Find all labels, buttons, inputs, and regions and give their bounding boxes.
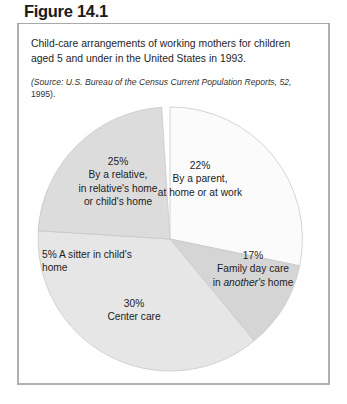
pie-label-family-line2-emphasis: another's [223, 277, 265, 288]
pie-label-center-percent: 30% [107, 297, 160, 310]
pie-label-relative-line1: By a relative, [89, 169, 148, 180]
pie-label-family-line1: Family day care [217, 263, 289, 274]
pie-label-family-line2-post: home [265, 277, 293, 288]
pie-label-center-care: 30% Center care [107, 297, 160, 324]
figure-title: Figure 14.1 [24, 2, 108, 21]
pie-label-sitter-percent: 5% [42, 249, 57, 260]
pie-label-sitter: 5% A sitter in child's home [42, 248, 150, 275]
pie-label-sitter-line2: home [42, 262, 67, 273]
pie-label-parent-line2: at home or at work [158, 187, 242, 198]
pie-label-center-line1: Center care [107, 311, 160, 322]
pie-label-relative-line3: or child's home [84, 196, 152, 207]
pie-label-relative-line2: in relative's home [79, 183, 158, 194]
pie-label-family-day-care: 17% Family day care in another's home [213, 249, 294, 289]
pie-label-family-line2-pre: in [213, 277, 224, 288]
pie-label-parent-percent: 22% [158, 159, 242, 172]
pie-label-parent-line1: By a parent, [173, 173, 228, 184]
pie-label-family-percent: 17% [213, 249, 294, 262]
pie-label-relative: 25% By a relative, in relative's home or… [79, 155, 158, 209]
pie-label-sitter-line1: A sitter in child's [59, 249, 132, 260]
pie-label-relative-percent: 25% [79, 155, 158, 168]
pie-chart [17, 24, 330, 385]
pie-label-parent: 22% By a parent, at home or at work [158, 159, 242, 199]
pie-chart-svg [17, 24, 330, 385]
